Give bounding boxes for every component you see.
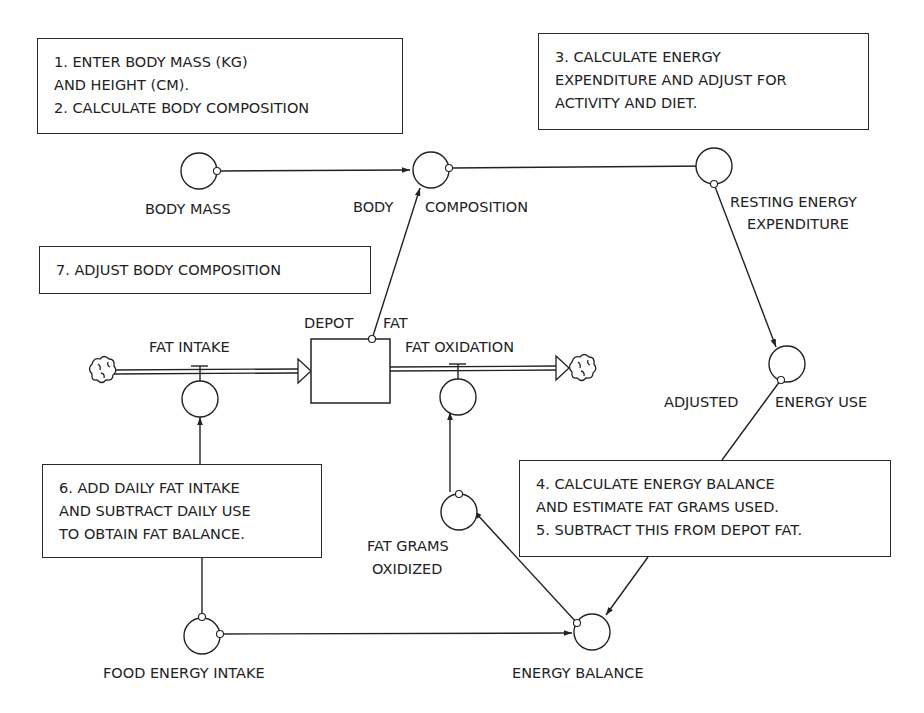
sink-cloud-icon [570, 355, 596, 381]
fat-intake-pipe-bottom [111, 373, 298, 374]
fat-grams-label-line1: FAT GRAMS [367, 537, 449, 555]
fat-intake-flow-arrowhead [298, 359, 311, 383]
resting-energy-connector [711, 181, 718, 188]
link-body-composition-to-resting-energy [452, 166, 712, 168]
fat-oxidation-pipe-bottom [389, 370, 556, 371]
body-composition-label-body: BODY [353, 198, 393, 216]
note-line: 1. ENTER BODY MASS (KG) [54, 51, 388, 74]
body-composition-connector [446, 165, 453, 172]
note-line: AND ESTIMATE FAT GRAMS USED. [536, 496, 876, 519]
note-line: AND SUBTRACT DAILY USE [59, 500, 307, 523]
food-energy-intake-label: FOOD ENERGY INTAKE [103, 664, 265, 682]
depot-fat-label-fat: FAT [383, 314, 408, 332]
resting-energy-label-line2: EXPENDITURE [747, 215, 849, 233]
adjusted-energy-label-energy-use: ENERGY USE [775, 393, 867, 411]
note-line: AND HEIGHT (CM). [54, 74, 388, 97]
note-line: 7. ADJUST BODY COMPOSITION [56, 259, 356, 282]
note-line: TO OBTAIN FAT BALANCE. [59, 523, 307, 546]
adjusted-energy-connector [778, 377, 785, 384]
note-step-4-5: 4. CALCULATE ENERGY BALANCE AND ESTIMATE… [519, 460, 891, 557]
fat-intake-pipe-top [111, 369, 298, 370]
energy-balance-node[interactable] [574, 614, 610, 650]
note-step-6: 6. ADD DAILY FAT INTAKE AND SUBTRACT DAI… [42, 464, 322, 558]
body-composition-label-composition: COMPOSITION [425, 198, 528, 216]
food-energy-top-connector [199, 614, 206, 621]
depot-fat-connector [369, 336, 376, 343]
link-food-energy-to-energy-balance [221, 633, 572, 634]
energy-balance-label: ENERGY BALANCE [512, 664, 644, 682]
note-line: 2. CALCULATE BODY COMPOSITION [54, 97, 388, 120]
fat-oxidation-flow-arrowhead [556, 356, 569, 380]
depot-fat-stock[interactable] [311, 339, 390, 403]
resting-energy-expenditure-node[interactable] [696, 148, 732, 184]
fat-oxidation-pipe-top [389, 366, 556, 367]
fat-intake-label: FAT INTAKE [149, 338, 230, 356]
note-line: 4. CALCULATE ENERGY BALANCE [536, 473, 876, 496]
food-energy-right-connector [217, 631, 224, 638]
note-line: 6. ADD DAILY FAT INTAKE [59, 477, 307, 500]
note-step-7: 7. ADJUST BODY COMPOSITION [39, 246, 371, 294]
fat-oxidation-valve[interactable] [440, 364, 476, 415]
depot-fat-label-depot: DEPOT [304, 314, 353, 332]
link-body-mass-to-body-composition [220, 170, 410, 171]
body-mass-node[interactable] [181, 153, 217, 189]
fat-grams-oxidized-node[interactable] [441, 494, 477, 530]
note-step-1-2: 1. ENTER BODY MASS (KG) AND HEIGHT (CM).… [37, 38, 403, 134]
body-mass-label: BODY MASS [145, 200, 231, 218]
source-cloud-icon [90, 357, 116, 383]
fat-oxidation-label: FAT OXIDATION [405, 338, 514, 356]
fat-grams-label-line2: OXIDIZED [372, 560, 442, 578]
note-line: ACTIVITY AND DIET. [555, 92, 854, 115]
adjusted-energy-label-adjusted: ADJUSTED [664, 393, 738, 411]
note-line: 3. CALCULATE ENERGY [555, 46, 854, 69]
note-line: 5. SUBTRACT THIS FROM DEPOT FAT. [536, 519, 876, 542]
energy-balance-connector [574, 620, 581, 627]
adjusted-energy-use-node[interactable] [769, 346, 805, 382]
note-step-3: 3. CALCULATE ENERGY EXPENDITURE AND ADJU… [538, 33, 869, 130]
fat-grams-connector [456, 491, 463, 498]
resting-energy-label-line1: RESTING ENERGY [730, 193, 857, 211]
body-composition-node[interactable] [413, 152, 449, 188]
note-line: EXPENDITURE AND ADJUST FOR [555, 69, 854, 92]
link-box4-to-energy-balance [606, 557, 648, 615]
body-mass-connector [214, 168, 221, 175]
food-energy-intake-node[interactable] [184, 618, 220, 654]
